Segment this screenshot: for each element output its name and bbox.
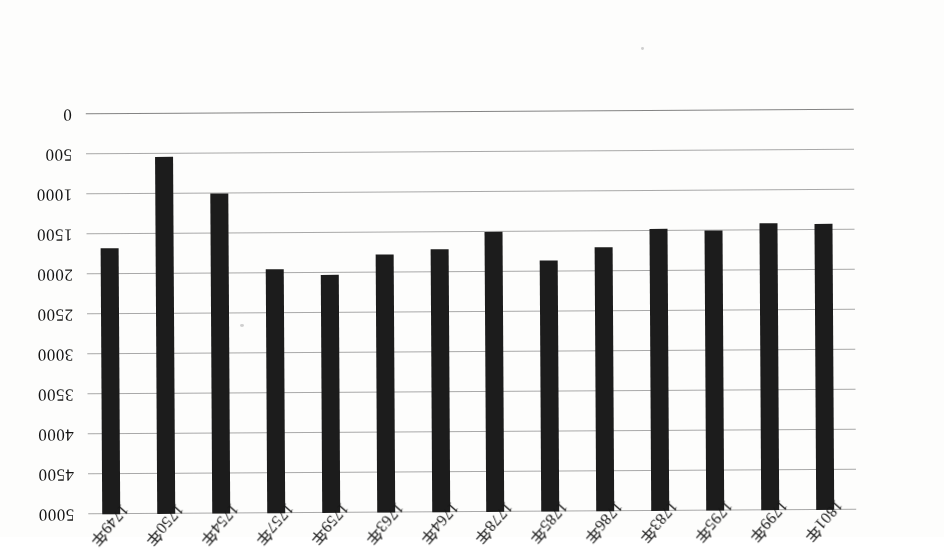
bar[interactable]	[155, 157, 175, 514]
bar-group[interactable]: 1759年	[320, 113, 340, 513]
gridline	[86, 149, 854, 155]
x-axis-category-label: 1750年	[141, 500, 192, 552]
bar[interactable]	[595, 247, 615, 511]
gridline	[87, 309, 855, 315]
y-axis-tick-label: 0	[63, 104, 72, 124]
gridline	[87, 389, 855, 395]
axis-line-zero	[86, 109, 854, 115]
bar[interactable]	[540, 260, 560, 511]
bar[interactable]	[101, 249, 121, 515]
gridline	[88, 469, 856, 475]
gridline	[87, 349, 855, 355]
y-axis-tick-label: 1000	[36, 184, 72, 204]
y-axis-tick-label: 4500	[38, 464, 74, 484]
bar-group[interactable]: 1801年	[813, 110, 833, 510]
y-axis-tick-label: 3500	[37, 384, 73, 404]
x-axis-category-label: 1801年	[799, 496, 850, 549]
gridline	[87, 269, 855, 275]
bar[interactable]	[321, 275, 340, 513]
gridline	[87, 229, 855, 235]
bar-group[interactable]: 1783年	[649, 111, 669, 511]
bar[interactable]	[704, 230, 724, 510]
bar[interactable]	[814, 224, 834, 510]
scan-speck	[240, 324, 244, 327]
bar-group[interactable]: 1799年	[758, 110, 778, 510]
bar[interactable]	[375, 255, 395, 513]
x-axis-category-label: 1759年	[305, 499, 356, 552]
bar-group[interactable]: 1763年	[374, 112, 394, 512]
x-axis-category-label: 1786年	[579, 497, 630, 550]
bar-group[interactable]: 1750年	[155, 114, 175, 514]
bar-group[interactable]: 1764年	[429, 112, 449, 512]
x-axis-category-label: 1763年	[360, 498, 411, 551]
y-axis-tick-label: 1500	[36, 224, 72, 244]
y-axis-tick-label: 3000	[37, 344, 73, 364]
bar[interactable]	[649, 229, 669, 511]
x-axis-category-label: 1749年	[86, 500, 137, 552]
gridline	[88, 509, 856, 515]
x-axis-category-label: 1778年	[470, 498, 521, 551]
x-axis-category-label: 1764年	[415, 498, 466, 551]
bar-group[interactable]: 1754年	[210, 113, 230, 513]
y-axis-tick-label: 4000	[38, 424, 74, 444]
bar[interactable]	[430, 249, 450, 512]
bar[interactable]	[210, 193, 230, 513]
x-axis-category-label: 1785年	[525, 497, 576, 550]
x-axis-category-label: 1754年	[195, 499, 246, 552]
gridline	[88, 429, 856, 435]
bar-group[interactable]: 1749年	[100, 114, 120, 514]
bar[interactable]	[485, 232, 505, 512]
bar-group[interactable]: 1786年	[594, 111, 614, 511]
bar[interactable]	[266, 269, 285, 513]
x-axis-category-label: 1799年	[744, 496, 795, 549]
y-axis-tick-label: 2000	[37, 264, 73, 284]
x-axis-category-label: 1757年	[250, 499, 301, 552]
scan-speck	[641, 47, 644, 50]
y-axis-tick-label: 2500	[37, 304, 73, 324]
x-axis-category-label: 1795年	[689, 496, 740, 549]
bar-group[interactable]: 1795年	[704, 110, 724, 510]
bar[interactable]	[759, 223, 779, 510]
bar-group[interactable]: 1778年	[484, 112, 504, 512]
bar-group[interactable]: 1785年	[539, 111, 559, 511]
gridline	[86, 189, 854, 195]
x-axis-category-label: 1783年	[634, 497, 685, 550]
y-axis-tick-label: 500	[45, 144, 72, 164]
bar-group[interactable]: 1757年	[265, 113, 285, 513]
y-axis-tick-label: 5000	[38, 504, 74, 524]
plot-area: 0500100015002000250030003500400045005000…	[86, 110, 856, 515]
